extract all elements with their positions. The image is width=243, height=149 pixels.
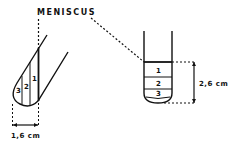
- tilted-layer-2: 2: [24, 83, 29, 91]
- meniscus-label: MENISCUS: [37, 8, 96, 17]
- tilted-layer-3: 3: [16, 87, 21, 95]
- meniscus-diagram: MENISCUS 1 2 3 1,6 cm 1 2 3: [0, 0, 243, 149]
- height-label: 2,6 cm: [199, 80, 228, 88]
- meniscus-pointer-lines: [39, 18, 145, 62]
- tilted-tube: [13, 35, 68, 106]
- upright-layer-3: 3: [156, 90, 161, 98]
- tilted-layer-1: 1: [32, 75, 37, 83]
- width-label: 1,6 cm: [11, 132, 40, 140]
- width-dimension: [13, 103, 39, 127]
- upright-layer-1: 1: [156, 67, 161, 75]
- upright-layer-2: 2: [156, 80, 161, 88]
